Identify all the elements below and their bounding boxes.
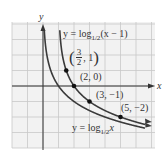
data-point [87, 99, 92, 104]
curve1-label: y = log1/2(x − 1) [63, 29, 128, 42]
data-point [72, 84, 77, 89]
y-axis-label: y [39, 12, 43, 22]
data-point [118, 115, 123, 120]
curve2-label: y = log1/2x [72, 123, 114, 136]
point-label-2-0: (2, 0) [80, 72, 102, 82]
paren-open: ( [69, 49, 75, 66]
curve2-label-suffix: x [109, 122, 113, 133]
x-axis-label: x [157, 81, 161, 91]
point-label-3-2-1-rest: , 1 [83, 53, 93, 63]
data-point [64, 68, 69, 73]
fraction-denominator: 2 [77, 58, 82, 67]
curve1-label-suffix: (x − 1) [100, 28, 127, 39]
point-label-5-neg2: (5, −2) [121, 103, 148, 113]
point-label-3-2-1: ( 3 2 , 1 ) [69, 48, 99, 67]
paren-close: ) [93, 49, 99, 66]
curve1-label-prefix: y = log [63, 28, 91, 39]
curve2-label-prefix: y = log [72, 122, 100, 133]
fraction: 3 2 [76, 48, 83, 67]
point-label-3-neg1: (3, −1) [96, 90, 123, 100]
